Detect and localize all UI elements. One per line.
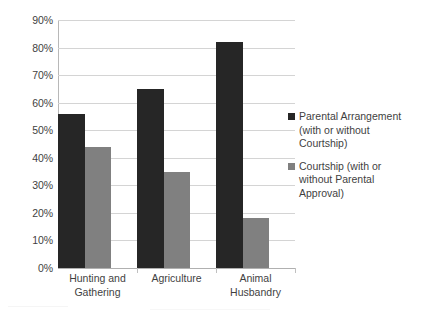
gridline xyxy=(58,103,295,104)
y-axis-tick-label: 60% xyxy=(5,98,53,109)
y-axis-tick-labels: 90%80%70%60%50%40%30%20%10%0% xyxy=(0,20,53,268)
category-label-line: Gathering xyxy=(58,286,137,300)
bar-chart: 90%80%70%60%50%40%30%20%10%0% Hunting an… xyxy=(0,0,427,320)
legend-swatch-icon xyxy=(288,113,295,120)
y-axis-tick-label: 10% xyxy=(5,235,53,246)
legend-label-line: (with or without xyxy=(299,124,401,138)
category-label-line: Agriculture xyxy=(137,272,216,286)
y-axis-tick-label: 20% xyxy=(5,208,53,219)
legend-label-line: Courtship) xyxy=(299,137,401,151)
legend-label: Courtship (with orwithout ParentalApprov… xyxy=(299,160,381,201)
y-axis-tick-label: 70% xyxy=(5,70,53,81)
legend-label-line: Courtship (with or xyxy=(299,160,381,174)
bar xyxy=(243,218,270,268)
bar xyxy=(85,147,112,268)
x-axis-category-label: Agriculture xyxy=(137,272,216,286)
y-axis-tick-label: 50% xyxy=(5,125,53,136)
category-label-line: Hunting and xyxy=(58,272,137,286)
y-axis-tick-label: 40% xyxy=(5,153,53,164)
x-axis-tick-mark xyxy=(295,268,296,273)
legend-swatch-icon xyxy=(288,163,295,170)
gridline xyxy=(58,48,295,49)
gridline xyxy=(58,75,295,76)
x-axis-category-labels: Hunting andGatheringAgricultureAnimal Hu… xyxy=(58,272,295,316)
x-axis-category-label: Hunting andGathering xyxy=(58,272,137,299)
chart-legend: Parental Arrangement(with or withoutCour… xyxy=(288,110,424,209)
bar xyxy=(164,172,191,268)
legend-item[interactable]: Courtship (with orwithout ParentalApprov… xyxy=(288,160,424,201)
bar xyxy=(58,114,85,268)
x-axis-category-label: Animal Husbandry xyxy=(216,272,295,299)
plot-area xyxy=(58,20,295,268)
y-axis-tick-label: 30% xyxy=(5,180,53,191)
y-axis-tick-label: 0% xyxy=(5,263,53,274)
x-axis-tick-mark xyxy=(216,268,217,273)
legend-label-line: Approval) xyxy=(299,187,381,201)
y-axis-tick-label: 80% xyxy=(5,43,53,54)
x-axis-tick-mark xyxy=(137,268,138,273)
gridline xyxy=(58,20,295,21)
legend-item[interactable]: Parental Arrangement(with or withoutCour… xyxy=(288,110,424,151)
legend-label: Parental Arrangement(with or withoutCour… xyxy=(299,110,401,151)
gridline xyxy=(58,130,295,131)
bar xyxy=(216,42,243,268)
y-axis-tick-label: 90% xyxy=(5,15,53,26)
gridline xyxy=(58,268,295,269)
category-label-line: Animal Husbandry xyxy=(216,272,295,299)
legend-label-line: Parental Arrangement xyxy=(299,110,401,124)
legend-label-line: without Parental xyxy=(299,173,381,187)
bar xyxy=(137,89,164,268)
